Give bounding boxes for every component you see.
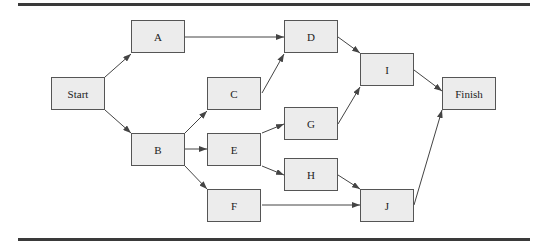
node-c: C [207, 77, 261, 110]
node-a: A [131, 20, 185, 53]
node-b: B [131, 133, 185, 166]
edge-c-d [262, 54, 284, 93]
node-j: J [360, 189, 414, 222]
node-i: I [360, 53, 414, 86]
node-label: F [231, 200, 237, 212]
node-label: J [385, 200, 389, 212]
node-finish: Finish [442, 77, 496, 110]
node-label: H [307, 169, 315, 181]
node-label: B [154, 144, 161, 156]
edge-d-i [338, 37, 360, 53]
node-label: E [231, 144, 238, 156]
node-label: A [154, 31, 162, 43]
node-label: Finish [455, 88, 483, 100]
edge-g-i [338, 87, 360, 124]
edge-i-finish [414, 70, 442, 91]
edge-e-h [262, 166, 284, 175]
node-label: Start [68, 88, 89, 100]
edge-h-j [338, 175, 360, 189]
node-h: H [284, 158, 338, 191]
node-label: D [307, 31, 315, 43]
node-start: Start [51, 77, 105, 110]
edge-e-g [262, 124, 284, 133]
node-e: E [207, 133, 261, 166]
node-g: G [284, 107, 338, 140]
node-f: F [207, 189, 261, 222]
edge-start-b [105, 110, 131, 133]
edges-layer [0, 0, 543, 243]
edge-b-f [185, 166, 207, 189]
node-label: I [385, 64, 389, 76]
node-label: G [307, 118, 315, 130]
edge-start-a [105, 54, 131, 77]
node-label: C [230, 88, 237, 100]
edge-j-finish [414, 110, 442, 205]
edge-b-c [185, 111, 207, 133]
node-d: D [284, 20, 338, 53]
